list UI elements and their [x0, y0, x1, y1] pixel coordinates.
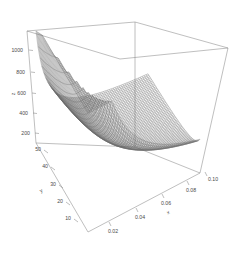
x-tick-label: 0.02 — [108, 228, 118, 234]
z-axis-title: z — [10, 92, 16, 95]
y-tick-label: 50 — [35, 146, 41, 152]
x-tick-label: 0.08 — [186, 187, 196, 193]
z-tick-label: 400 — [19, 110, 28, 116]
y-tick-label: 20 — [57, 198, 63, 204]
plot-canvas: 1000 800 600 400 200 z 50 40 30 20 10 y … — [0, 0, 240, 253]
z-tick-label: 600 — [17, 90, 26, 96]
y-tick-label: 40 — [42, 163, 48, 169]
z-tick-label: 1000 — [11, 47, 23, 53]
y-tick-label: 10 — [65, 215, 71, 221]
x-tick-label: 0.06 — [161, 200, 171, 206]
y-tick-label: 30 — [50, 181, 56, 187]
z-tick-label: 200 — [21, 130, 30, 136]
persp-3d-surface-plot: 1000 800 600 400 200 z 50 40 30 20 10 y … — [0, 0, 240, 253]
x-tick-label: 0.04 — [135, 214, 145, 220]
x-tick-label: 0.10 — [208, 176, 218, 182]
z-tick-label: 800 — [16, 69, 25, 75]
